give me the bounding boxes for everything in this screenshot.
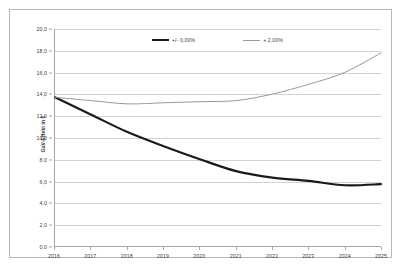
legend-item[interactable]: +/- 0,00% — [152, 37, 195, 43]
x-axis-tick-mark — [54, 247, 55, 250]
series-line — [55, 53, 381, 104]
x-axis-tick-label: 2024 — [339, 253, 351, 259]
x-axis-tick-label: 2017 — [84, 253, 96, 259]
y-axis-tick-mark — [49, 94, 52, 95]
y-axis-tick-mark — [49, 138, 52, 139]
x-axis-tick-mark — [127, 247, 128, 250]
y-axis-tick-group: 0,02,04,06,08,010,012,014,016,018,020,0 — [10, 29, 52, 247]
y-axis-tick-mark — [49, 181, 52, 182]
y-axis-tick-mark — [49, 116, 52, 117]
plot-area — [54, 29, 381, 247]
y-axis-tick-label: 4,0 — [39, 200, 47, 206]
y-axis-tick-label: 12,0 — [37, 113, 48, 119]
x-axis-tick-mark — [90, 247, 91, 250]
x-axis-tick-mark — [308, 247, 309, 250]
series-svg — [55, 29, 381, 246]
x-axis-tick-mark — [381, 247, 382, 250]
y-axis-tick-label: 20,0 — [37, 26, 48, 32]
y-axis-tick-label: 0,0 — [39, 244, 47, 250]
x-axis-tick-label: 2019 — [157, 253, 169, 259]
y-axis-tick-mark — [49, 225, 52, 226]
y-axis-tick-mark — [49, 29, 52, 30]
legend-item-label: +/- 0,00% — [172, 37, 195, 43]
y-axis-tick-label: 18,0 — [37, 48, 48, 54]
x-axis-tick-mark — [199, 247, 200, 250]
legend-swatch-icon — [152, 39, 169, 41]
x-axis-tick-label: 2016 — [48, 253, 60, 259]
y-axis-tick-label: 8,0 — [39, 157, 47, 163]
x-axis-tick-label: 2020 — [193, 253, 205, 259]
y-axis-tick-mark — [49, 159, 52, 160]
chart-legend: +/- 0,00%+ 2,00% — [54, 34, 381, 46]
x-axis-tick-mark — [272, 247, 273, 250]
x-axis-tick-label: 2022 — [266, 253, 278, 259]
series-line — [55, 97, 381, 185]
y-axis-tick-label: 14,0 — [37, 91, 48, 97]
y-axis-tick-mark — [49, 247, 52, 248]
y-axis-tick-label: 16,0 — [37, 70, 48, 76]
legend-item[interactable]: + 2,00% — [243, 37, 283, 43]
x-axis-tick-group: 2016201720182019202020212022202320242025 — [54, 247, 381, 261]
legend-item-label: + 2,00% — [263, 37, 283, 43]
chart-frame: GuV-Effekt in € 0,02,04,06,08,010,012,01… — [9, 9, 392, 258]
x-axis-tick-label: 2021 — [230, 253, 242, 259]
y-axis-tick-label: 10,0 — [37, 135, 48, 141]
y-axis-tick-mark — [49, 203, 52, 204]
y-axis-tick-label: 2,0 — [39, 222, 47, 228]
y-axis-tick-mark — [49, 72, 52, 73]
x-axis-tick-label: 2018 — [121, 253, 133, 259]
x-axis-tick-mark — [163, 247, 164, 250]
y-axis-tick-label: 6,0 — [39, 179, 47, 185]
x-axis-tick-label: 2025 — [375, 253, 387, 259]
y-axis-tick-mark — [49, 50, 52, 51]
chart-plot-wrapper: GuV-Effekt in € 0,02,04,06,08,010,012,01… — [10, 10, 391, 257]
x-axis-tick-mark — [345, 247, 346, 250]
legend-swatch-icon — [243, 40, 260, 41]
x-axis-tick-mark — [236, 247, 237, 250]
x-axis-tick-label: 2023 — [302, 253, 314, 259]
